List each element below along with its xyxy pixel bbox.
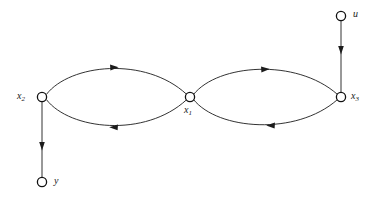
edge-path-x1-x2-lower bbox=[46, 100, 186, 126]
node-x3[interactable] bbox=[336, 92, 345, 101]
edge-path-x2-x1-upper bbox=[46, 68, 186, 94]
node-label-u-text: u bbox=[353, 8, 358, 19]
node-y[interactable] bbox=[37, 177, 46, 186]
node-u[interactable] bbox=[336, 11, 345, 20]
node-label-y: y bbox=[54, 176, 58, 186]
edge-x3-x1-lower bbox=[194, 100, 338, 129]
edge-path-x1-x3-upper bbox=[194, 69, 338, 94]
node-label-x2: x2 bbox=[17, 91, 25, 101]
edge-path-x3-x1-lower bbox=[194, 100, 338, 125]
arrowhead-x2-y bbox=[39, 142, 45, 151]
edge-x2-y bbox=[39, 102, 45, 178]
arrowhead-u-x3 bbox=[338, 46, 344, 55]
node-label-x3-sub: 3 bbox=[355, 95, 359, 103]
edge-x2-x1-upper bbox=[46, 65, 186, 95]
arrowhead-x2-x1-upper bbox=[110, 65, 119, 71]
edge-x1-x3-upper bbox=[194, 66, 338, 94]
node-label-x2-sub: 2 bbox=[21, 95, 25, 103]
arrowhead-x1-x3-upper bbox=[261, 66, 270, 72]
graph-diagram: u x2 x1 x3 y bbox=[0, 0, 373, 204]
graph-canvas bbox=[0, 0, 373, 204]
edge-x1-x2-lower bbox=[46, 100, 186, 131]
node-x2[interactable] bbox=[37, 92, 46, 101]
node-label-x1: x1 bbox=[184, 105, 192, 115]
node-x1[interactable] bbox=[185, 92, 194, 101]
node-label-x1-sub: 1 bbox=[188, 109, 192, 117]
edge-u-x3 bbox=[338, 21, 344, 93]
node-label-x3: x3 bbox=[351, 91, 359, 101]
arrowhead-x3-x1-lower bbox=[266, 123, 275, 129]
node-label-u: u bbox=[353, 9, 358, 19]
node-label-y-text: y bbox=[54, 175, 58, 186]
